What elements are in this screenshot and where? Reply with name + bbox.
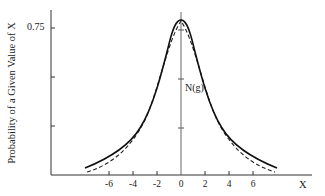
x-axis-label: X (299, 179, 307, 190)
x-tick-label: -2 (149, 179, 165, 189)
y-ticks (51, 28, 55, 126)
curve-label-ng: N(g) (185, 82, 204, 93)
y-tick-label-075: 0.75 (27, 21, 45, 32)
chart-plot (0, 0, 325, 196)
x-tick-label: 6 (245, 179, 261, 189)
x-tick-label: 2 (197, 179, 213, 189)
x-tick-label: 4 (221, 179, 237, 189)
y-axis-label: Probability of a Given Value of X (6, 8, 20, 178)
x-tick-label: 0 (173, 179, 189, 189)
x-tick-label: -4 (125, 179, 141, 189)
x-tick-label: -6 (101, 179, 117, 189)
